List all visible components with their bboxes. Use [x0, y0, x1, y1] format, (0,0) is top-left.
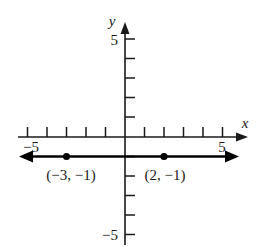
graph-canvas: y x 5 −5 −5 5 (−3, −1) (2, −1)	[0, 0, 262, 249]
x-axis-group	[18, 127, 248, 142]
x-axis-label: x	[241, 115, 249, 131]
x-axis-tick-label-neg5: −5	[23, 139, 39, 155]
point-label-left: (−3, −1)	[46, 167, 95, 184]
plotted-point-2-neg1	[160, 153, 167, 160]
graph-line-right-arrowhead-icon	[225, 151, 239, 163]
coordinate-plane-figure: y x 5 −5 −5 5 (−3, −1) (2, −1)	[0, 0, 262, 249]
y-axis-label: y	[107, 13, 116, 29]
y-axis-arrowhead-icon	[121, 22, 130, 34]
graph-line-group	[19, 151, 239, 163]
y-axis-tick-label-5: 5	[111, 32, 119, 48]
plotted-point-neg3-neg1	[63, 153, 70, 160]
point-label-right: (2, −1)	[145, 167, 186, 184]
x-axis-tick-label-5: 5	[218, 139, 226, 155]
x-axis-arrowhead-icon	[236, 133, 248, 142]
y-axis-group	[121, 22, 136, 245]
y-axis-tick-label-neg5: −5	[102, 227, 118, 243]
